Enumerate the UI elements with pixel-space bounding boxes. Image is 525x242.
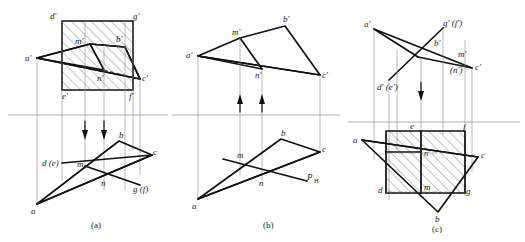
label-n-prime-b: n′: [255, 70, 263, 80]
label-d-c: d: [378, 185, 383, 195]
label-c-b: c: [322, 144, 326, 154]
label-gf-prime-c: g′ (f′): [443, 18, 462, 28]
label-ph-b: P H: [306, 172, 319, 184]
label-n-a: n: [101, 178, 106, 188]
diagram-b: a′ b′ c′ m′ n′ a b c m n P H (b): [172, 14, 340, 230]
label-a-c: a: [353, 135, 358, 145]
diagram-a: d′ g′ a′ b′ c′ m′ n′ e′ f′ a b c m n d (…: [8, 11, 168, 230]
caption-b: (b): [263, 220, 274, 230]
label-b-prime-a: b′: [116, 34, 124, 44]
label-n-c: n: [424, 148, 429, 158]
triangle-horizontal-a: [37, 141, 152, 204]
label-g-c: g: [466, 186, 471, 196]
projection-arrows-a: [82, 121, 107, 140]
svg-text:H: H: [314, 177, 319, 184]
label-d-prime-a: d′: [50, 11, 58, 21]
label-e-prime-a: e′: [62, 91, 69, 101]
diagram-c: a′ b′ g′ (f′) m′ (n′) c′ d′ (e′) a b c d…: [348, 18, 520, 234]
triangle-frontal-b: [198, 26, 320, 75]
label-g-prime-a: g′: [133, 11, 141, 21]
label-de-a: d (e): [42, 158, 59, 168]
label-c-prime-c: c′: [475, 62, 482, 72]
label-a-prime-a: a′: [25, 53, 33, 63]
label-c-prime-b: c′: [322, 70, 329, 80]
label-a-a: a: [31, 206, 36, 216]
projection-arrows-b: [237, 94, 265, 112]
label-c-a: c: [153, 147, 157, 157]
label-c-prime-a: c′: [142, 73, 149, 83]
label-m-prime-c: m′: [458, 49, 467, 59]
label-b-prime-b: b′: [283, 14, 291, 24]
figure-root: d′ g′ a′ b′ c′ m′ n′ e′ f′ a b c m n d (…: [0, 0, 525, 242]
projection-arrows-c: [418, 82, 424, 101]
label-gf-a: g (f): [133, 184, 148, 194]
label-a-prime-b: a′: [186, 50, 194, 60]
label-b-a: b: [119, 130, 124, 140]
label-m-b: m: [237, 150, 244, 160]
caption-a: (a): [91, 220, 101, 230]
label-f-prime-a: f′: [129, 91, 135, 101]
label-b-prime-c: b′: [434, 38, 442, 48]
label-m-a: m: [77, 159, 84, 169]
label-b-b: b: [281, 128, 286, 138]
label-m-prime-a: m′: [75, 36, 84, 46]
label-n-prime-c: (n′): [450, 65, 462, 75]
label-m-prime-b: m′: [232, 27, 241, 37]
label-e-c: e: [410, 121, 414, 131]
edge-lines-horizontal-a: [62, 155, 152, 185]
label-a-b: a: [192, 201, 197, 211]
descriptive-geometry-figure: d′ g′ a′ b′ c′ m′ n′ e′ f′ a b c m n d (…: [0, 0, 525, 242]
label-a-prime-c: a′: [364, 19, 372, 29]
label-m-c: m: [424, 182, 431, 192]
label-f-c: f: [463, 122, 467, 132]
svg-text:P: P: [306, 172, 313, 182]
label-c-c: c: [481, 150, 485, 160]
label-b-c: b: [435, 214, 440, 224]
label-n-prime-a: n′: [97, 73, 105, 83]
label-n-b: n: [259, 178, 264, 188]
caption-c: (c): [432, 224, 442, 234]
label-de-prime-c: d′ (e′): [377, 82, 398, 92]
